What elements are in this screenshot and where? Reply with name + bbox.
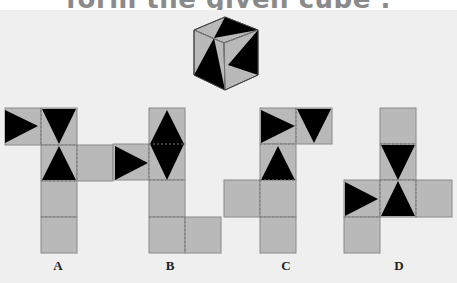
net-option-c[interactable] [224,108,332,253]
option-label-d: D [394,258,403,274]
option-label-b: B [166,258,175,274]
option-label-c: C [281,258,290,274]
given-cube [194,17,258,90]
net-option-a[interactable] [5,108,113,253]
net-option-d[interactable] [344,108,452,253]
net-option-b[interactable] [113,108,221,253]
option-label-a: A [53,258,62,274]
figure-canvas: .sq { fill: #b9b9b9; stroke: #8a8a8a; st… [0,0,457,283]
